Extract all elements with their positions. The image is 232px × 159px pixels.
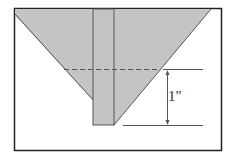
- diagram: [0, 0, 232, 159]
- dimension-label: 1": [168, 88, 182, 105]
- vertical-bar: [93, 9, 114, 125]
